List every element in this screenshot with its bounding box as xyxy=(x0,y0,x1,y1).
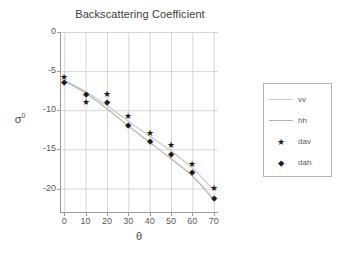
legend-label: dav xyxy=(298,132,311,152)
x-tick-label: 20 xyxy=(97,216,117,226)
data-point-dah: ⬥ xyxy=(188,168,197,177)
data-point-dav: ★ xyxy=(81,98,90,107)
legend-line-swatch xyxy=(269,120,293,121)
x-tick-label: 60 xyxy=(182,216,202,226)
x-axis-label: θ xyxy=(60,230,218,242)
legend-label: vv xyxy=(298,90,306,110)
legend-item-hh[interactable]: hh xyxy=(264,111,331,131)
y-tick-label: -15 xyxy=(20,144,56,153)
x-axis-line xyxy=(60,212,218,213)
chart-legend: vvhh★dav⬥dah xyxy=(263,83,332,177)
y-tick-label: -20 xyxy=(20,184,56,193)
data-point-dah: ⬥ xyxy=(167,150,176,159)
x-tick-label: 40 xyxy=(140,216,160,226)
x-tick-label: 0 xyxy=(54,216,74,226)
y-tick-mark xyxy=(57,110,61,111)
chart-title: Backscattering Coefficient xyxy=(60,8,220,20)
y-axis-label-superscript: 0 xyxy=(21,112,25,119)
data-point-dah: ⬥ xyxy=(102,98,111,107)
data-point-dah: ⬥ xyxy=(81,90,90,99)
legend-key-line xyxy=(269,90,293,110)
data-point-dah: ⬥ xyxy=(209,194,218,203)
chart-figure: Backscattering Coefficient 0-5-10-15-20 … xyxy=(0,0,337,256)
legend-item-dav[interactable]: ★dav xyxy=(264,132,331,152)
legend-marker-swatch: ★ xyxy=(269,132,293,152)
data-point-dah: ⬥ xyxy=(145,137,154,146)
legend-item-vv[interactable]: vv xyxy=(264,90,331,110)
x-tick-label: 70 xyxy=(204,216,224,226)
gridlines-layer xyxy=(60,32,218,212)
y-tick-label: -5 xyxy=(20,66,56,75)
data-point-dah: ⬥ xyxy=(60,78,69,87)
x-tick-label: 10 xyxy=(76,216,96,226)
y-axis-label: σ0 xyxy=(0,112,42,125)
legend-item-dah[interactable]: ⬥dah xyxy=(264,153,331,173)
y-tick-mark xyxy=(57,32,61,33)
y-tick-label: 0 xyxy=(20,27,56,36)
legend-label: dah xyxy=(298,153,311,173)
y-tick-mark xyxy=(57,189,61,190)
data-point-dah: ⬥ xyxy=(124,121,133,130)
legend-key-marker: ⬥ xyxy=(269,153,293,173)
x-tick-label: 50 xyxy=(161,216,181,226)
x-tick-label: 30 xyxy=(118,216,138,226)
legend-key-marker: ★ xyxy=(269,132,293,152)
legend-key-line xyxy=(269,111,293,131)
y-axis-line xyxy=(60,32,61,212)
legend-marker-swatch: ⬥ xyxy=(269,153,293,173)
legend-label: hh xyxy=(298,111,307,131)
data-point-dav: ★ xyxy=(209,184,218,193)
y-tick-mark xyxy=(57,149,61,150)
legend-line-swatch xyxy=(269,99,293,100)
